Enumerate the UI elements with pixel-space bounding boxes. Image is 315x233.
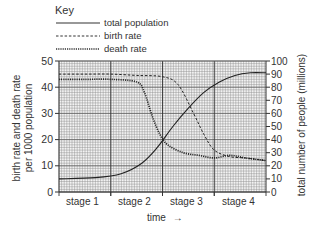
left-tick-label: 10 (41, 159, 53, 171)
left-tick-label: 30 (41, 107, 53, 119)
right-tick-label: 10 (271, 173, 283, 184)
right-tick-label: 100 (271, 56, 288, 67)
stage-3-label: stage 3 (170, 196, 203, 207)
x-axis-label: time → (147, 212, 183, 223)
right-tick-label: 60 (271, 108, 283, 119)
right-tick-label: 40 (271, 134, 283, 145)
chart-plot: 010203040500102030405060708090100 (0, 0, 315, 233)
left-axis-label: birth rate and death rate per 1000 popul… (11, 43, 35, 213)
right-tick-label: 20 (271, 160, 283, 171)
stage-2-label: stage 2 (118, 196, 151, 207)
stage-4-label: stage 4 (222, 196, 255, 207)
right-axis-label: total number of people (millions) (296, 35, 308, 215)
right-arrow-icon: → (173, 212, 183, 223)
left-tick-label: 40 (41, 81, 53, 93)
right-tick-label: 80 (271, 82, 283, 93)
right-tick-label: 90 (271, 69, 283, 80)
right-tick-label: 30 (271, 147, 283, 158)
left-tick-label: 50 (41, 55, 53, 67)
left-axis-label-line2: per 1000 population (23, 43, 35, 213)
x-axis-label-text: time (147, 212, 166, 223)
left-axis-label-line1: birth rate and death rate (11, 43, 23, 213)
left-tick-label: 20 (41, 133, 53, 145)
right-tick-label: 0 (271, 187, 277, 198)
stage-1-label: stage 1 (66, 196, 99, 207)
right-tick-label: 50 (271, 121, 283, 132)
left-tick-label: 0 (47, 186, 53, 198)
right-tick-label: 70 (271, 95, 283, 106)
